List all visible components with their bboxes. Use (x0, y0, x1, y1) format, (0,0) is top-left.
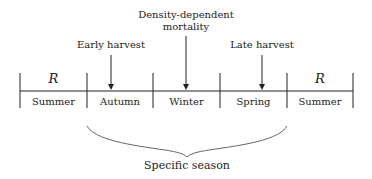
r-label-left: R (20, 71, 87, 86)
arrow-late-harvest-icon (259, 55, 265, 90)
event-late-harvest: Late harvest (212, 39, 312, 51)
event-mortality-line2: mortality (126, 21, 246, 33)
season-winter: Winter (153, 96, 220, 108)
season-summer-2: Summer (287, 96, 353, 108)
r-label-right: R (287, 71, 353, 86)
season-autumn: Autumn (87, 96, 153, 108)
event-early-harvest: Early harvest (61, 39, 161, 51)
brace-icon (87, 126, 287, 157)
arrow-early-harvest-icon (108, 55, 114, 90)
season-spring: Spring (220, 96, 287, 108)
season-summer-1: Summer (20, 96, 87, 108)
event-mortality-line1: Density-dependent (126, 9, 246, 21)
brace-label: Specific season (127, 160, 247, 172)
arrow-mortality-icon (183, 36, 189, 90)
season-timeline-diagram: R R Summer Autumn Winter Spring Summer E… (0, 0, 372, 179)
